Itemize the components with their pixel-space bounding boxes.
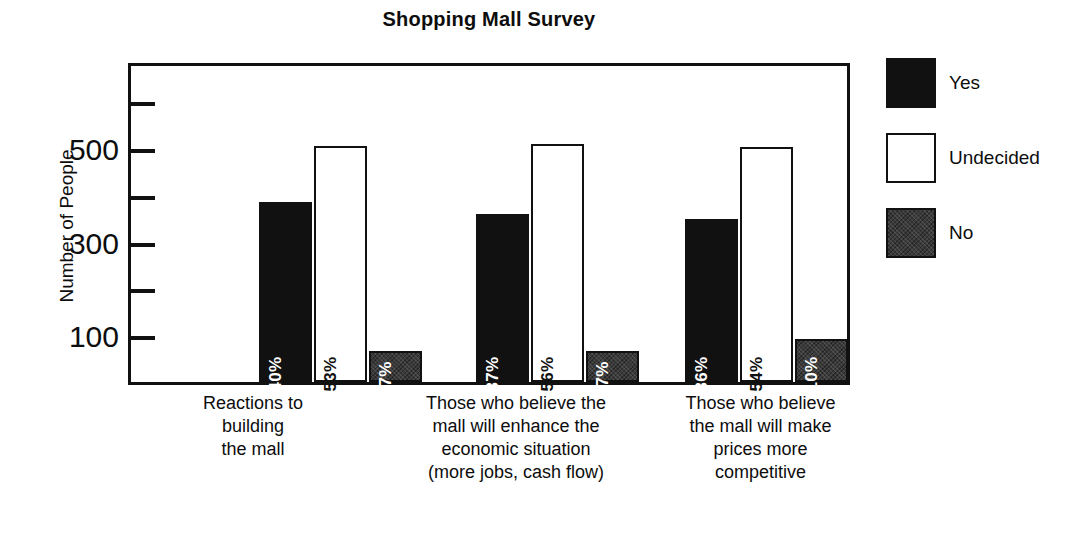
legend-item-no[interactable]: No (886, 208, 973, 258)
chart-title: Shopping Mall Survey (128, 8, 850, 31)
legend-swatch-yes (886, 58, 936, 108)
category-label-line: Reactions to (153, 392, 353, 415)
category-label-line: the mall will make (633, 415, 888, 438)
category-label-line: Those who believe (633, 392, 888, 415)
y-tick-label-100: 100 (33, 322, 119, 352)
category-label-line: (more jobs, cash flow) (366, 461, 666, 484)
category-label-line: competitive (633, 461, 888, 484)
category-label-1: Reactions tobuildingthe mall (153, 392, 353, 461)
y-tick-600 (128, 102, 155, 106)
y-tick-200 (128, 289, 155, 293)
category-label-line: mall will enhance the (366, 415, 666, 438)
legend-label: No (949, 222, 973, 244)
y-tick-100 (128, 336, 155, 340)
legend-label: Undecided (949, 147, 1040, 169)
legend-label: Yes (949, 72, 980, 94)
category-label-line: economic situation (366, 438, 666, 461)
category-label-line: Those who believe the (366, 392, 666, 415)
y-tick-label-300: 300 (33, 229, 119, 259)
y-tick-label-500: 500 (33, 135, 119, 165)
legend-item-yes[interactable]: Yes (886, 58, 980, 108)
y-tick-500 (128, 149, 155, 153)
x-axis-category-labels: Reactions tobuildingthe mallThose who be… (128, 392, 878, 512)
category-label-line: the mall (153, 438, 353, 461)
chart-canvas: Shopping Mall Survey Number of People 10… (0, 0, 1091, 539)
chart-legend: YesUndecidedNo (886, 58, 1086, 258)
legend-swatch-no (886, 208, 936, 258)
category-label-line: prices more (633, 438, 888, 461)
category-label-line: building (153, 415, 353, 438)
category-label-2: Those who believe themall will enhance t… (366, 392, 666, 484)
y-tick-400 (128, 196, 155, 200)
y-tick-300 (128, 243, 155, 247)
category-label-3: Those who believethe mall will makeprice… (633, 392, 888, 484)
legend-item-undecided[interactable]: Undecided (886, 133, 1040, 183)
legend-swatch-undecided (886, 133, 936, 183)
plot-area (128, 63, 850, 385)
